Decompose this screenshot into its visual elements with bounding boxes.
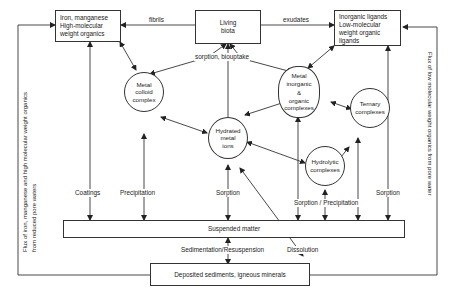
metal-inorganic-line1: Metal [291,72,306,80]
ternary-complexes-node: Ternary complexes [350,88,390,128]
inorganic-ligands-line2: Low-molecular [339,21,396,29]
iron-manganese-line2: High-molecular [60,22,116,30]
hydrolytic-complexes-node: Hydrolytic complexes [305,146,345,186]
hydrated-metal-ions-node: Hydrated metal ions [208,117,248,159]
metal-inorganic-line5: complexes [284,104,314,112]
metal-colloid-line3: complex [132,96,155,104]
sorption-precipitation-label: Sorption / Precipitation [293,199,359,207]
metal-inorganic-line2: inorganic [286,80,311,88]
inorganic-ligands-line4: ligands [339,37,396,45]
ternary-line2: complexes [355,108,385,116]
iron-manganese-line3: weight organics [60,30,116,38]
inorganic-ligands-box: Inorganic ligands Low-molecular weight o… [334,10,401,46]
metal-colloid-line2: colloid [135,88,153,96]
metal-colloid-node: Metal colloid complex [124,72,164,112]
hydrolytic-line1: Hydrolytic [311,158,338,166]
precipitation-label: Precipitation [119,189,156,197]
hydrated-line3: ions [222,142,233,150]
inorganic-ligands-line3: weight organic [339,29,396,37]
hydrolytic-line2: complexes [310,166,340,174]
left-flux-label-line1: Flux of iron, manganese and high molecul… [21,92,29,252]
suspended-matter-label: Suspended matter [208,225,260,233]
fibrils-label: fibrils [148,16,165,24]
metal-inorganic-line3: & [297,89,301,97]
inorganic-ligands-line1: Inorganic ligands [339,13,396,21]
sorption-biouptake-label: sorption, biouptake [194,53,250,61]
deposited-sediments-label: Deposited sediments, igneous minerals [174,271,286,279]
suspended-matter-box: Suspended matter [63,220,405,238]
coatings-label: Coatings [74,189,101,197]
living-biota-box: Living biota [195,10,261,44]
sorption-right-label: Sorption [375,189,401,197]
exudates-label: exudates [282,16,310,24]
sorption-center-label: Sorption [215,189,241,197]
sedimentation-label: Sedimentation/Resuspension [180,246,265,254]
iron-manganese-line1: Iron, manganese [60,14,116,22]
right-flux-label: Flux of low molecular weight organics fr… [426,52,434,195]
living-biota-line2: biota [221,27,235,35]
metal-colloid-line1: Metal [136,81,151,89]
dissolution-label: Dissolution [286,246,319,254]
living-biota-line1: Living [220,19,237,27]
hydrated-line2: metal [220,134,235,142]
hydrated-line1: Hydrated [215,127,240,135]
metal-inorganic-line4: organic [289,97,309,105]
deposited-sediments-box: Deposited sediments, igneous minerals [150,263,310,286]
left-flux-label-line2: from reduced pore waters [30,184,38,252]
ternary-line1: Ternary [360,100,381,108]
metal-inorganic-organic-node: Metal inorganic & organic complexes [278,66,320,118]
iron-manganese-box: Iron, manganese High-molecular weight or… [55,10,121,42]
